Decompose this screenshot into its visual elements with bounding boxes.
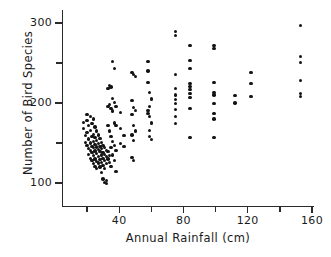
- data-point: [148, 115, 151, 118]
- data-point: [103, 146, 106, 149]
- data-point: [105, 162, 108, 165]
- data-point: [130, 156, 133, 159]
- data-point: [106, 157, 109, 160]
- x-tick-label: 160: [297, 214, 327, 227]
- data-point: [98, 137, 101, 140]
- data-point: [93, 149, 96, 152]
- data-point: [122, 134, 125, 137]
- y-tick-major: [55, 182, 62, 183]
- data-point: [146, 60, 149, 63]
- x-tick-minor: [151, 207, 152, 212]
- data-point: [233, 101, 236, 104]
- data-point: [114, 170, 117, 173]
- data-point: [111, 60, 114, 63]
- data-point: [95, 160, 98, 163]
- data-point: [130, 133, 133, 136]
- data-point: [150, 121, 153, 124]
- data-point: [85, 144, 88, 147]
- data-point: [105, 155, 108, 158]
- data-point: [89, 115, 92, 118]
- data-point: [85, 113, 88, 116]
- data-point: [98, 150, 101, 153]
- x-axis-line: [62, 206, 314, 207]
- data-point: [87, 153, 90, 156]
- data-point: [174, 93, 177, 96]
- data-point: [119, 142, 122, 145]
- data-point: [106, 150, 109, 153]
- data-point: [92, 133, 95, 136]
- data-point: [130, 71, 133, 74]
- data-point: [93, 125, 96, 128]
- data-point: [299, 24, 302, 27]
- data-point: [97, 148, 100, 151]
- data-point: [111, 109, 114, 112]
- data-point: [146, 109, 149, 112]
- data-point: [90, 135, 93, 138]
- data-point: [114, 149, 117, 152]
- data-point: [114, 105, 117, 108]
- data-point: [188, 44, 191, 47]
- data-point: [98, 158, 101, 161]
- data-point: [299, 92, 302, 95]
- data-point: [113, 144, 116, 147]
- data-point: [95, 139, 98, 142]
- data-point: [150, 138, 153, 141]
- data-point: [113, 67, 116, 70]
- data-point: [299, 55, 302, 58]
- data-point: [212, 91, 215, 94]
- data-point: [89, 129, 92, 132]
- data-point: [113, 159, 116, 162]
- data-point: [105, 149, 108, 152]
- data-point: [111, 97, 114, 100]
- data-point: [84, 141, 87, 144]
- data-point: [92, 146, 95, 149]
- data-point: [109, 85, 112, 88]
- data-point: [148, 129, 151, 132]
- data-point: [134, 129, 137, 132]
- data-point: [103, 153, 106, 156]
- data-point: [109, 135, 112, 138]
- data-point: [108, 154, 111, 157]
- data-point: [95, 152, 98, 155]
- data-point: [249, 71, 252, 74]
- data-point: [299, 79, 302, 82]
- data-point: [82, 127, 85, 130]
- data-point: [148, 135, 151, 138]
- data-point: [146, 69, 149, 72]
- data-point: [85, 131, 88, 134]
- x-tick-major: [247, 207, 248, 213]
- data-point: [101, 157, 104, 160]
- y-tick-major: [55, 102, 62, 103]
- data-point: [106, 105, 109, 108]
- data-point: [105, 182, 108, 185]
- data-point: [97, 161, 100, 164]
- data-point: [106, 87, 109, 90]
- data-point: [98, 145, 101, 148]
- data-point: [111, 140, 114, 143]
- data-point: [100, 153, 103, 156]
- data-point: [299, 61, 302, 64]
- y-tick-minor: [56, 142, 62, 143]
- data-point: [90, 151, 93, 154]
- data-point: [132, 106, 135, 109]
- data-point: [85, 119, 88, 122]
- x-tick-label: 120: [233, 214, 263, 227]
- data-point: [100, 161, 103, 164]
- data-point: [101, 177, 104, 180]
- data-point: [174, 115, 177, 118]
- data-point: [188, 92, 191, 95]
- x-axis-title: Annual Rainfall (cm): [62, 231, 314, 245]
- data-point: [212, 117, 215, 120]
- data-point: [87, 147, 90, 150]
- data-point: [174, 30, 177, 33]
- data-point: [174, 34, 177, 37]
- data-point: [93, 165, 96, 168]
- data-point: [93, 136, 96, 139]
- data-point: [84, 134, 87, 137]
- data-point: [132, 139, 135, 142]
- data-point: [113, 121, 116, 124]
- x-tick-minor: [215, 207, 216, 212]
- data-point: [174, 73, 177, 76]
- x-tick-label: 40: [104, 214, 134, 227]
- data-point: [134, 75, 137, 78]
